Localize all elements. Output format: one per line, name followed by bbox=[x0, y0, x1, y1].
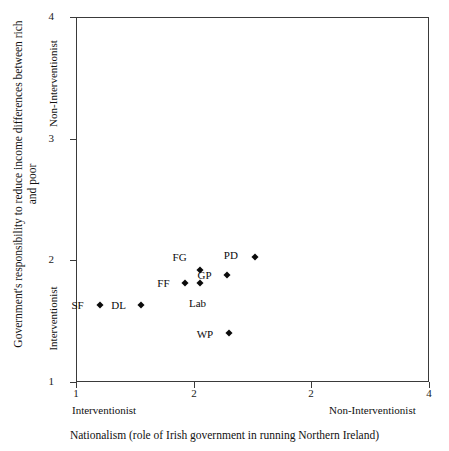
y-tick-mark bbox=[70, 17, 76, 18]
y-tick-mark bbox=[70, 139, 76, 140]
x-axis-title: Nationalism (role of Irish government in… bbox=[0, 429, 449, 442]
data-point-label: FF bbox=[157, 278, 169, 289]
data-point-label: SF bbox=[71, 300, 83, 311]
data-point-label: PD bbox=[224, 249, 238, 260]
y-axis-title: Government's responsibility to reduce in… bbox=[11, 14, 39, 354]
y-axis-anchor-low-label: Interventionist bbox=[48, 259, 59, 379]
x-tick-label: 2 bbox=[182, 388, 206, 399]
x-tick-label: 4 bbox=[417, 388, 441, 399]
x-axis-anchor-right-label: Non-Interventionist bbox=[329, 405, 416, 416]
data-point-label: GP bbox=[198, 269, 212, 280]
y-axis-anchor-high-label: Non-Interventionist bbox=[48, 19, 59, 149]
scatter-plot-figure: 1234 1224 SFDLFFLabFGGPPDWP Government's… bbox=[0, 0, 449, 451]
plot-area bbox=[76, 17, 429, 382]
data-point-label: WP bbox=[197, 329, 214, 340]
data-point-label: Lab bbox=[189, 298, 206, 309]
data-point-label: DL bbox=[111, 300, 126, 311]
x-axis-anchor-left-label: Interventionist bbox=[72, 405, 136, 416]
y-tick-mark bbox=[70, 260, 76, 261]
x-tick-label: 2 bbox=[299, 388, 323, 399]
x-tick-label: 1 bbox=[64, 388, 88, 399]
data-point-label: FG bbox=[173, 252, 187, 263]
